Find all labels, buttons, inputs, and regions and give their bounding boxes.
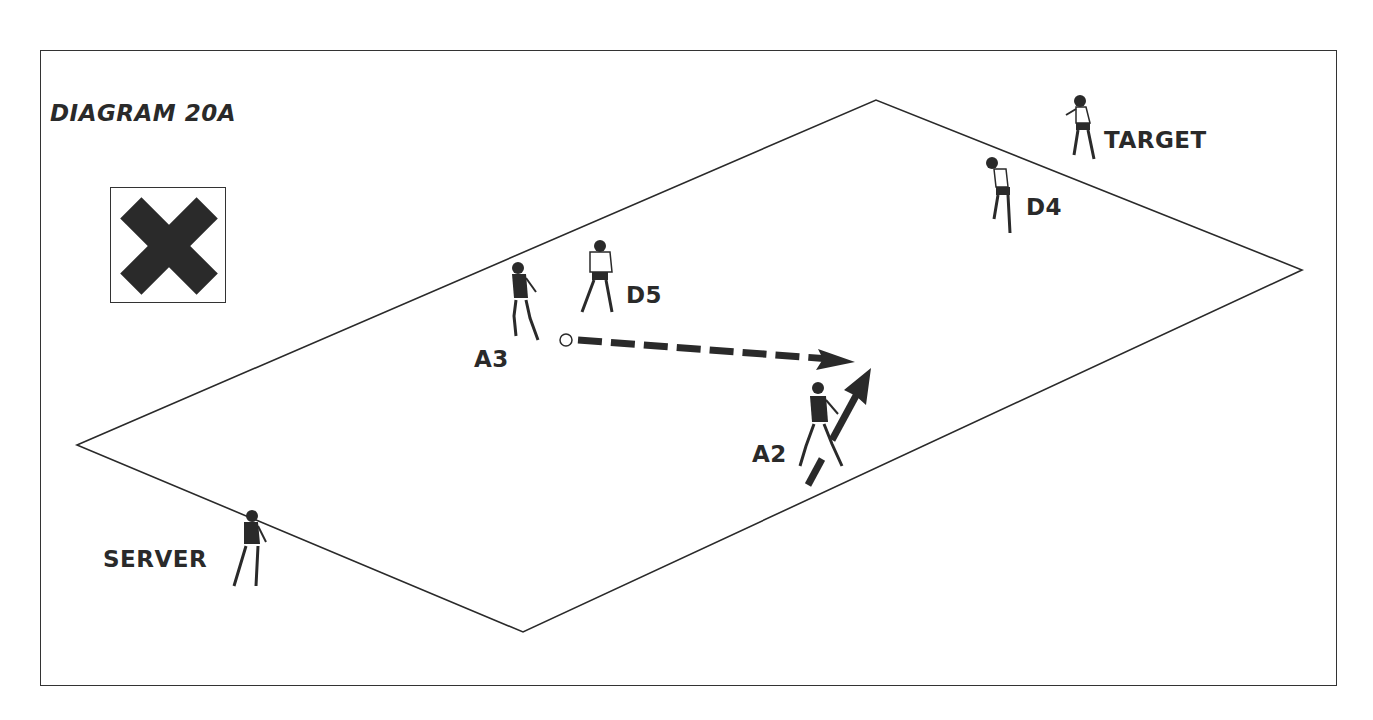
player-d5-figure: [582, 240, 612, 312]
label-d4: D4: [1026, 194, 1062, 220]
player-target-figure: [1066, 95, 1094, 159]
label-a3: A3: [474, 346, 509, 372]
label-a2: A2: [752, 441, 787, 467]
label-target: TARGET: [1104, 127, 1207, 153]
player-d4-figure: [986, 157, 1010, 233]
ball-icon: [560, 334, 572, 346]
label-server: SERVER: [103, 546, 207, 572]
pass-arrow: [578, 340, 855, 370]
field-outline: [77, 100, 1302, 632]
player-a2-figure: [800, 382, 842, 466]
field-diagram: [0, 0, 1373, 720]
label-d5: D5: [626, 282, 662, 308]
player-a3-figure: [512, 262, 538, 340]
